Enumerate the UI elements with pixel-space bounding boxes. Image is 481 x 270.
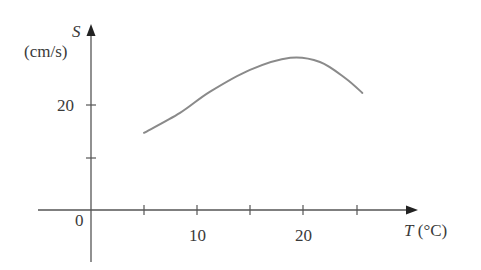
x-axis-variable: T bbox=[404, 221, 413, 240]
x-axis-label: T (°C) bbox=[404, 221, 447, 241]
y-axis-variable: S bbox=[72, 22, 81, 42]
data-curve bbox=[144, 57, 362, 132]
x-axis-unit: (°C) bbox=[418, 221, 447, 240]
y-axis-arrow-icon bbox=[87, 24, 96, 36]
x-axis-arrow-icon bbox=[406, 206, 418, 215]
y-axis-unit: (cm/s) bbox=[24, 42, 67, 62]
y-tick-label-20: 20 bbox=[57, 96, 74, 116]
x-tick-label-10: 10 bbox=[189, 226, 206, 246]
x-tick-label-20: 20 bbox=[295, 226, 312, 246]
origin-label: 0 bbox=[75, 211, 84, 231]
